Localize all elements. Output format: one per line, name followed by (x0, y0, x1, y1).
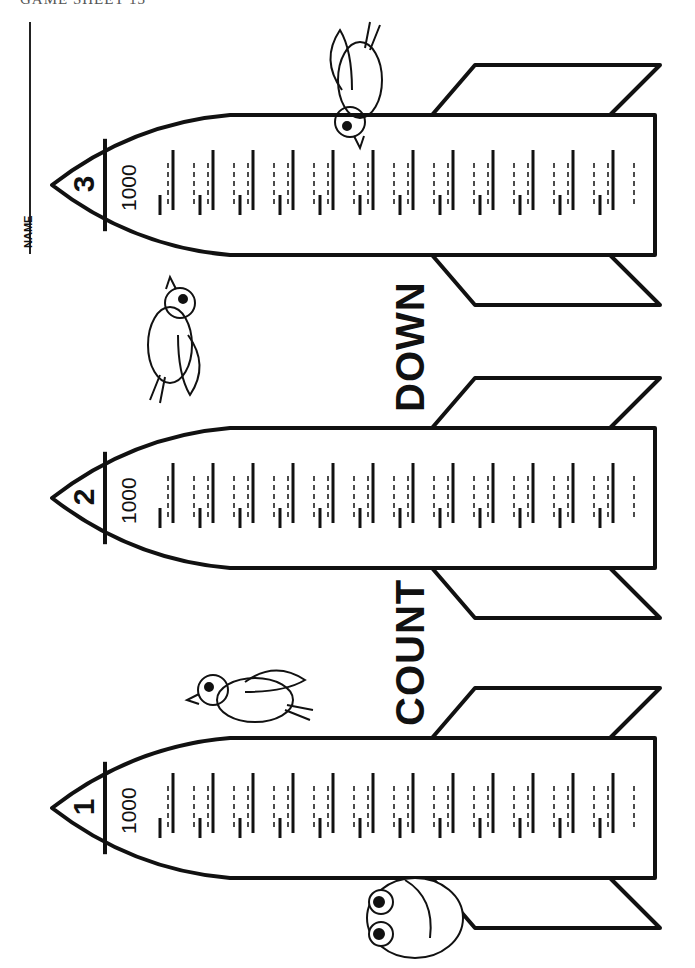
rocket-start-value-3: 1000 (117, 164, 141, 211)
owl-illustration (367, 878, 463, 958)
rocket-2-fin-top (432, 378, 660, 428)
rocket-start-value-1: 1000 (117, 787, 141, 834)
flying-bird-illustration (148, 277, 200, 403)
rocket-number-2: 2 (67, 489, 101, 506)
rocket-2-fin-bottom (432, 568, 660, 618)
rocket-start-value-2: 1000 (117, 477, 141, 524)
rocket-number-3: 3 (67, 176, 101, 193)
rocket-number-1: 1 (67, 799, 101, 816)
title-word-count: COUNT (388, 579, 433, 726)
rocket-3-fin-bottom (432, 255, 660, 305)
rocket-3-fin-top (432, 65, 660, 115)
woodpecker-illustration (187, 670, 313, 722)
rockets-drawing (0, 0, 695, 968)
rocket-1-fin-top (432, 688, 660, 738)
rocket-1-fin-bottom (432, 878, 660, 928)
title-word-down: DOWN (388, 281, 433, 412)
